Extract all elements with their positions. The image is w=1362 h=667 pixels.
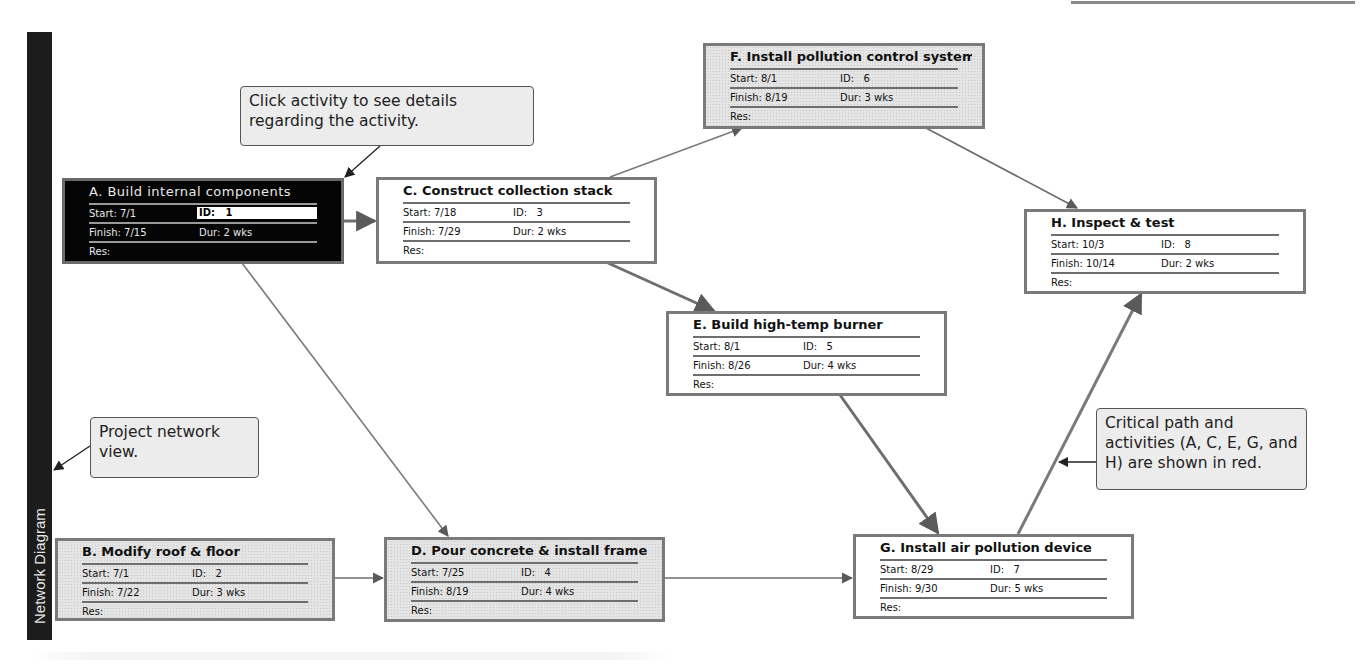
activity-id: 7 [1014,564,1020,575]
node-row-resources: Res: [1051,272,1279,293]
node-row-finish: Finish: 9/30 Dur: 5 wks [880,578,1107,599]
start-date: 7/1 [113,568,129,579]
start-date: 7/18 [434,207,456,218]
finish-date: 8/26 [728,360,750,371]
finish-date: 8/19 [765,92,787,103]
duration: 2 wks [224,227,253,238]
node-title: F. Install pollution control system [730,48,972,66]
faint-caption-bleed [30,652,670,660]
node-title: H. Inspect & test [1051,214,1293,232]
node-row-finish: Finish: 7/15 Dur: 2 wks [89,222,317,243]
finish-date: 7/22 [117,587,139,598]
node-row-start: Start: 7/18 ID: 3 [403,202,630,223]
activity-id: 8 [1185,239,1191,250]
node-row-resources: Res: [880,597,1107,618]
start-date: 8/1 [761,73,777,84]
duration: 3 wks [865,92,894,103]
activity-id: 5 [827,341,833,352]
node-row-resources: Res: [89,241,317,262]
callout-click-activity: Click activity to see details regarding … [240,86,534,146]
callout-critical-path: Critical path and activities (A, C, E, G… [1096,408,1307,490]
node-row-finish: Finish: 8/19 Dur: 4 wks [411,581,638,602]
activity-id: 1 [225,207,232,218]
duration: 2 wks [538,226,567,237]
node-title: A. Build internal components [89,183,331,201]
node-row-start: Start: 8/1 ID: 6 [730,68,958,89]
node-row-resources: Res: [693,374,920,395]
activity-node-g[interactable]: G. Install air pollution device Start: 8… [853,534,1134,619]
callout-project-network: Project network view. [90,417,259,478]
start-date: 10/3 [1082,239,1104,250]
activity-id: 4 [545,567,551,578]
link-a-d [242,263,448,536]
node-row-finish: Finish: 7/29 Dur: 2 wks [403,221,630,242]
node-row-resources: Res: [730,106,958,127]
node-row-finish: Finish: 8/19 Dur: 3 wks [730,87,958,108]
node-title: D. Pour concrete & install frame [411,542,652,560]
activity-node-b[interactable]: B. Modify roof & floor Start: 7/1 ID: 2 … [55,538,335,621]
duration: 3 wks [217,587,246,598]
activity-id: 6 [864,73,870,84]
node-title: E. Build high-temp burner [693,316,934,334]
finish-date: 10/14 [1086,258,1115,269]
activity-node-e[interactable]: E. Build high-temp burner Start: 8/1 ID:… [666,311,947,396]
node-row-start: Start: 7/1 ID: 2 [82,563,308,584]
node-row-resources: Res: [411,600,638,621]
node-title: B. Modify roof & floor [82,543,322,561]
activity-node-c[interactable]: C. Construct collection stack Start: 7/1… [376,177,657,264]
node-title: G. Install air pollution device [880,539,1121,557]
id-field-highlighted[interactable]: ID: 1 [197,207,317,219]
duration: 4 wks [546,586,575,597]
link-c-e [608,263,714,311]
start-date: 8/1 [724,341,740,352]
duration: 2 wks [1186,258,1215,269]
node-row-finish: Finish: 8/26 Dur: 4 wks [693,355,920,376]
finish-date: 7/15 [124,227,146,238]
activity-node-f[interactable]: F. Install pollution control system Star… [703,43,985,129]
callout-pointer-click [345,146,380,177]
start-date: 8/29 [911,564,933,575]
node-row-finish: Finish: 7/22 Dur: 3 wks [82,582,308,603]
activity-id: 2 [216,568,222,579]
node-row-start: Start: 10/3 ID: 8 [1051,234,1279,255]
node-row-resources: Res: [82,601,308,622]
activity-node-h[interactable]: H. Inspect & test Start: 10/3 ID: 8 Fini… [1024,209,1306,294]
node-row-finish: Finish: 10/14 Dur: 2 wks [1051,253,1279,274]
node-row-start: Start: 7/25 ID: 4 [411,562,638,583]
callout-pointer-network [54,446,90,470]
start-date: 7/1 [120,208,136,219]
node-row-start: Start: 7/1 ID: 1 [89,203,317,224]
node-row-start: Start: 8/29 ID: 7 [880,559,1107,580]
finish-date: 8/19 [446,586,468,597]
finish-date: 7/29 [438,226,460,237]
link-e-g [840,395,938,533]
duration: 5 wks [1015,583,1044,594]
duration: 4 wks [828,360,857,371]
start-date: 7/25 [442,567,464,578]
node-row-resources: Res: [403,240,630,261]
link-c-f [610,128,742,177]
link-f-h [926,128,1077,208]
activity-node-d[interactable]: D. Pour concrete & install frame Start: … [384,537,665,622]
finish-date: 9/30 [915,583,937,594]
node-row-start: Start: 8/1 ID: 5 [693,336,920,357]
node-title: C. Construct collection stack [403,182,644,200]
activity-node-a[interactable]: A. Build internal components Start: 7/1 … [62,178,344,264]
activity-id: 3 [537,207,543,218]
